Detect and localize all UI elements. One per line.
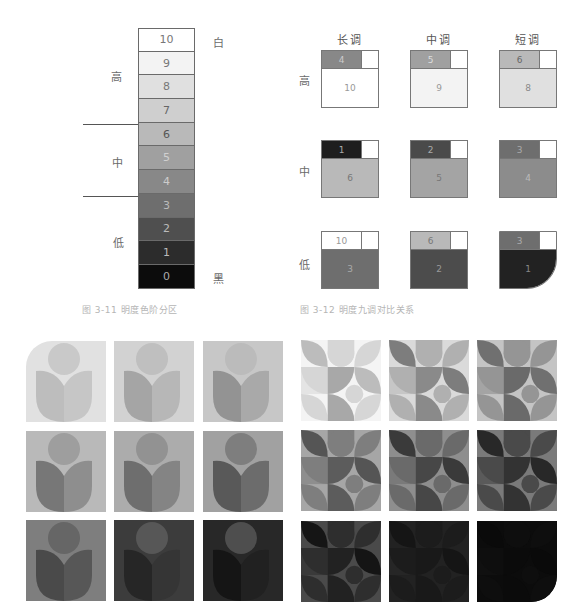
tulip-tile [26, 341, 106, 422]
geometric-pattern-icon [301, 521, 381, 602]
geometric-pattern-icon [301, 340, 381, 421]
tulip-icon [114, 341, 194, 422]
scale-cell: 10 [138, 28, 195, 52]
tone-white-swatch [362, 141, 379, 159]
tone-sample: 410 [321, 50, 379, 108]
geometric-pattern-icon [389, 430, 469, 511]
column-head-long: 长调 [321, 31, 379, 47]
zone-label-low: 低 [113, 234, 124, 250]
zone-label-mid: 中 [112, 154, 123, 170]
column-head-short: 短调 [499, 31, 557, 47]
geometric-pattern-icon [477, 521, 557, 602]
row-head-mid: 中 [299, 163, 310, 179]
scale-cell: 6 [138, 123, 195, 147]
scale-cell: 8 [138, 75, 195, 99]
geometric-pattern-icon [301, 430, 381, 511]
tulip-icon [203, 341, 283, 422]
caption-figure-3-12: 图 3-12 明度九调对比关系 [300, 303, 415, 316]
tulip-icon [26, 341, 106, 422]
tulip-tile [26, 431, 106, 512]
tone-sample: 25 [410, 140, 468, 198]
tone-white-swatch [451, 141, 468, 159]
geometric-tile [389, 430, 469, 511]
tone-accent: 6 [411, 232, 451, 250]
tone-base: 10 [322, 69, 378, 107]
geometric-tile [477, 521, 557, 602]
geometric-tile [301, 430, 381, 511]
tone-accent: 10 [322, 232, 362, 250]
tulip-tile [114, 341, 194, 422]
geometric-tile [477, 430, 557, 511]
tone-white-swatch [362, 232, 379, 250]
tone-accent: 2 [411, 141, 451, 159]
geometric-tile [477, 340, 557, 421]
scale-cell: 1 [138, 241, 195, 265]
tulip-tile [114, 431, 194, 512]
scale-cell: 7 [138, 99, 195, 123]
scale-cell: 0 [138, 265, 195, 289]
tone-sample: 31 [499, 231, 557, 289]
tone-base: 9 [411, 69, 467, 107]
tone-sample: 68 [499, 50, 557, 108]
tulip-icon [203, 520, 283, 601]
tone-white-swatch [540, 232, 557, 250]
scale-cell: 5 [138, 146, 195, 170]
tone-sample: 62 [410, 231, 468, 289]
tone-white-swatch [362, 51, 379, 69]
scale-cell: 3 [138, 194, 195, 218]
tone-accent: 6 [500, 51, 540, 69]
scale-cell: 4 [138, 170, 195, 194]
end-label-black: 黑 [213, 270, 224, 286]
tulip-tile [203, 431, 283, 512]
tone-white-swatch [540, 141, 557, 159]
tone-base: 1 [500, 250, 556, 288]
tone-accent: 3 [500, 232, 540, 250]
tone-base: 6 [322, 159, 378, 197]
tone-base: 5 [411, 159, 467, 197]
scale-cell: 9 [138, 52, 195, 76]
row-head-high: 高 [299, 72, 310, 88]
scale-cell: 2 [138, 218, 195, 242]
tone-base: 8 [500, 69, 556, 107]
tone-white-swatch [451, 232, 468, 250]
tone-sample: 103 [321, 231, 379, 289]
tulip-tile [26, 520, 106, 601]
tulip-icon [203, 431, 283, 512]
end-label-white: 白 [213, 34, 224, 50]
tulip-icon [114, 520, 194, 601]
geometric-tile [301, 521, 381, 602]
value-scale: 109876543210 [138, 28, 195, 289]
tone-sample: 59 [410, 50, 468, 108]
geometric-tile [301, 340, 381, 421]
tulip-tile [203, 520, 283, 601]
tone-sample: 16 [321, 140, 379, 198]
tulip-icon [114, 431, 194, 512]
tone-accent: 5 [411, 51, 451, 69]
tone-base: 4 [500, 159, 556, 197]
geometric-pattern-icon [477, 340, 557, 421]
row-head-low: 低 [299, 256, 310, 272]
geometric-pattern-icon [389, 340, 469, 421]
tone-base: 2 [411, 250, 467, 288]
zone-label-high: 高 [111, 68, 122, 84]
column-head-mid: 中调 [410, 31, 468, 47]
high-mid-divider [83, 124, 138, 125]
mid-low-divider [83, 196, 138, 197]
geometric-tile [389, 521, 469, 602]
tone-sample: 34 [499, 140, 557, 198]
geometric-pattern-icon [477, 430, 557, 511]
geometric-pattern-icon [389, 521, 469, 602]
tone-accent: 1 [322, 141, 362, 159]
tone-base: 3 [322, 250, 378, 288]
tulip-tile [114, 520, 194, 601]
tulip-icon [26, 520, 106, 601]
geometric-tile [389, 340, 469, 421]
tone-accent: 3 [500, 141, 540, 159]
tone-white-swatch [451, 51, 468, 69]
tulip-icon [26, 431, 106, 512]
tulip-tile [203, 341, 283, 422]
tone-white-swatch [540, 51, 557, 69]
caption-figure-3-11: 图 3-11 明度色阶分区 [82, 303, 178, 316]
tone-accent: 4 [322, 51, 362, 69]
